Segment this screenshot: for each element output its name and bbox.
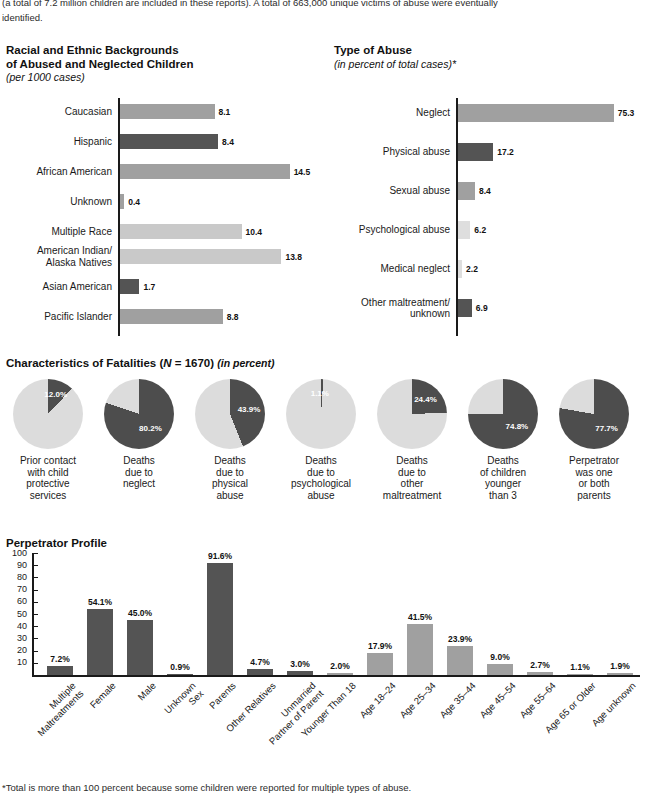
bar-category-label: Sexual abuse: [334, 185, 450, 197]
bar: [87, 609, 113, 675]
pie-item: 12.0%Prior contact with child protective…: [6, 379, 90, 501]
bar-category-label: Medical neglect: [334, 263, 450, 275]
abuse-chart-subtitle: (in percent of total cases)*: [334, 58, 456, 72]
y-axis-tick-label: 30: [6, 634, 27, 643]
bar: [120, 279, 140, 294]
bar-value-label: 9.0%: [486, 653, 514, 662]
bar: [127, 620, 153, 675]
y-axis-tick-label: 60: [6, 597, 27, 606]
bar-value-label: 7.2%: [46, 655, 74, 664]
bar: [120, 164, 290, 179]
bar-category-label: African American: [6, 166, 112, 178]
bar-category-label: Physical abuse: [334, 146, 450, 158]
bar-value-label: 1.1%: [566, 663, 594, 672]
bar-value-label: 17.9%: [366, 642, 394, 651]
bar-value-label: 14.5: [294, 167, 311, 177]
bar-row: Multiple Race10.4: [6, 224, 322, 246]
bar-value-label: 1.9%: [606, 662, 634, 671]
pie-item: 24.4%Deaths due to other maltreatment: [370, 379, 454, 501]
bar-value-label: 3.0%: [286, 660, 314, 669]
y-axis-tick-mark: [34, 638, 38, 639]
intro-text: (a total of 7.2 million children are inc…: [2, 0, 647, 25]
pie-caption: Prior contact with child protective serv…: [6, 455, 90, 501]
bar: [407, 624, 433, 675]
pie-value-label: 74.8%: [506, 422, 529, 431]
y-axis-tick-mark: [34, 590, 38, 591]
y-axis-tick-mark: [34, 553, 38, 554]
bar-value-label: 91.6%: [206, 552, 234, 561]
bar-row: Asian American1.7: [6, 279, 322, 301]
bar-value-label: 45.0%: [126, 609, 154, 618]
bar: [120, 194, 125, 209]
pie-caption: Deaths due to psychological abuse: [279, 455, 363, 501]
bar-value-label: 2.7%: [526, 661, 554, 670]
y-axis-tick-label: 70: [6, 585, 27, 594]
fatalities-title-main: Characteristics of Fatalities (: [6, 357, 163, 369]
fatalities-title-unit: (in percent): [217, 357, 274, 369]
bar-value-label: 4.7%: [246, 658, 274, 667]
type-of-abuse-chart: Type of Abuse (in percent of total cases…: [334, 44, 644, 344]
y-axis-tick-label: 40: [6, 622, 27, 631]
bar: [120, 104, 215, 119]
bar-value-label: 17.2: [497, 147, 514, 157]
fatalities-title-nval: = 1670): [172, 357, 218, 369]
pie-value-label: 43.9%: [238, 405, 261, 414]
bar-value-label: 0.4: [128, 197, 140, 207]
bar-row: Sexual abuse8.4: [334, 182, 644, 204]
bar: [120, 134, 219, 149]
pie-chart: 74.8%: [468, 379, 538, 449]
bar: [458, 182, 475, 200]
pie-chart: 80.2%: [104, 379, 174, 449]
bar: [120, 309, 223, 324]
bar-value-label: 8.1: [219, 107, 231, 117]
y-axis-tick-mark: [34, 577, 38, 578]
footnote: *Total is more than 100 percent because …: [2, 781, 411, 794]
perpetrator-profile-chart: Perpetrator Profile 10090807060504030201…: [6, 537, 643, 777]
pie-item: 74.8%Deaths of children younger than 3: [461, 379, 545, 501]
bar: [327, 673, 353, 675]
bar-row: Medical neglect2.2: [334, 260, 644, 282]
y-axis-tick-label: 100: [6, 549, 27, 558]
fatalities-title: Characteristics of Fatalities (N = 1670)…: [6, 357, 274, 371]
bar: [367, 653, 393, 675]
abuse-chart-header: Type of Abuse (in percent of total cases…: [334, 44, 456, 71]
bar-value-label: 10.4: [246, 227, 263, 237]
x-axis-line: [32, 675, 640, 677]
bar: [458, 143, 494, 161]
bar-category-label: Psychological abuse: [334, 224, 450, 236]
bar-row: Caucasian8.1: [6, 104, 322, 126]
bar-value-label: 8.4: [479, 186, 491, 196]
bar-value-label: 8.4: [222, 137, 234, 147]
bar-value-label: 6.9: [476, 303, 488, 313]
intro-line-1: (a total of 7.2 million children are inc…: [2, 0, 647, 10]
race-ethnicity-chart: Racial and Ethnic Backgrounds of Abused …: [6, 44, 322, 344]
bar-category-label: Unknown: [6, 196, 112, 208]
y-axis-tick-mark: [34, 602, 38, 603]
bar-category-label: Neglect: [334, 107, 450, 119]
pie-item: 1.1%Deaths due to psychological abuse: [279, 379, 363, 501]
bar: [47, 666, 73, 675]
y-axis-tick-label: 80: [6, 573, 27, 582]
bar-value-label: 6.2: [474, 225, 486, 235]
bar-category-label: Caucasian: [6, 106, 112, 118]
pie-value-label: 80.2%: [139, 424, 162, 433]
bar: [567, 674, 593, 676]
y-axis-line: [32, 553, 34, 677]
race-chart-title-line1: Racial and Ethnic Backgrounds: [6, 44, 193, 58]
abuse-chart-title: Type of Abuse: [334, 44, 456, 58]
perpetrator-chart-plot: 1009080706050403020107.2%Multiple Maltre…: [6, 553, 643, 777]
bar: [247, 669, 273, 675]
pie-chart: 77.7%: [559, 379, 629, 449]
infographic-page: (a total of 7.2 million children are inc…: [0, 0, 649, 798]
bar-category-label: Asian American: [6, 281, 112, 293]
bar-value-label: 41.5%: [406, 613, 434, 622]
y-axis-tick-mark: [34, 626, 38, 627]
bar-value-label: 23.9%: [446, 635, 474, 644]
bar-value-label: 2.2: [466, 264, 478, 274]
bar-value-label: 75.3: [618, 108, 635, 118]
pie-chart: 1.1%: [286, 379, 356, 449]
intro-line-2: identified.: [2, 10, 647, 25]
bar-value-label: 54.1%: [86, 598, 114, 607]
bar-row: Psychological abuse6.2: [334, 221, 644, 243]
pie-chart: 12.0%: [13, 379, 83, 449]
